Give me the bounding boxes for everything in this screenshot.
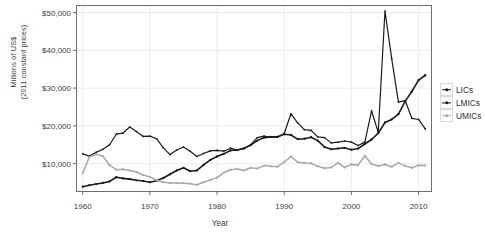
legend-item-lics[interactable]: LICs — [440, 83, 485, 96]
legend-key-icon — [440, 96, 453, 109]
x-axis-title: Year — [0, 219, 440, 228]
legend-item-lmics[interactable]: LMICs — [440, 96, 485, 109]
legend-item-label: UMICs — [456, 111, 481, 121]
legend-item-umics[interactable]: UMICs — [440, 109, 485, 122]
chart-figure: Millions of US$ (2011 constant prices) $… — [0, 0, 485, 234]
chart-legend: LICsLMICsUMICs — [440, 83, 485, 122]
legend-item-label: LICs — [456, 85, 473, 95]
legend-key-icon — [440, 109, 453, 122]
plot-area — [0, 0, 485, 234]
legend-key-icon — [440, 83, 453, 96]
legend-item-label: LMICs — [456, 98, 480, 108]
